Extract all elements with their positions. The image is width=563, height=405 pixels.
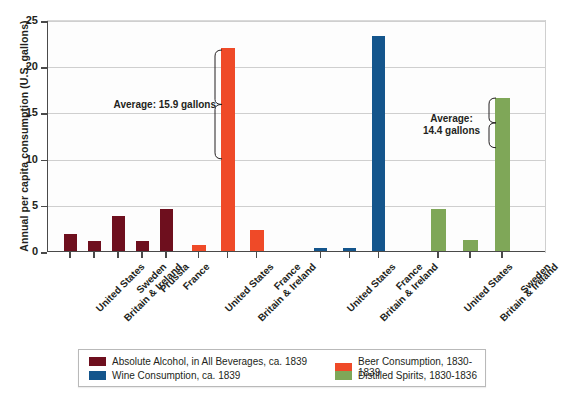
bar [136, 241, 149, 251]
legend-item-3[interactable]: Distilled Spirits, 1830-1836 [335, 370, 477, 381]
x-tick-mark [165, 252, 167, 258]
bar [192, 245, 206, 251]
x-tick-mark [93, 252, 95, 258]
legend-label-wine: Wine Consumption, ca. 1839 [112, 370, 240, 381]
gridline-5 [48, 206, 545, 207]
bar [88, 241, 101, 251]
bar [250, 230, 264, 251]
x-tick-mark [469, 252, 471, 258]
x-tick-mark [256, 252, 258, 258]
x-tick-mark [198, 252, 200, 258]
y-tick-label-10: 10 [5, 153, 38, 165]
y-tick-label-5: 5 [5, 199, 38, 211]
bar [160, 209, 173, 251]
bar [343, 248, 356, 251]
gridline-25 [48, 21, 545, 22]
x-tick-mark [378, 252, 380, 258]
y-tick-mark-0 [41, 252, 47, 254]
plot-right-border [545, 20, 546, 253]
legend-label-spirits: Distilled Spirits, 1830-1836 [358, 370, 477, 381]
gridline-20 [48, 67, 545, 68]
x-tick-mark [437, 252, 439, 258]
annotation-beer-average: Average: 15.9 gallons [96, 99, 216, 111]
bar [112, 216, 125, 251]
gridline-10 [48, 160, 545, 161]
y-tick-label-15: 15 [5, 106, 38, 118]
x-tick-mark [227, 252, 229, 258]
brace-icon [487, 97, 498, 149]
x-tick-mark [320, 252, 322, 258]
legend-swatch-wine [89, 371, 106, 380]
bar [314, 248, 327, 251]
legend-item-1[interactable]: Wine Consumption, ca. 1839 [89, 370, 240, 381]
y-tick-label-25: 25 [5, 14, 38, 26]
bar [431, 209, 446, 252]
legend-swatch-absolute-alcohol [89, 357, 106, 366]
x-tick-mark [501, 252, 503, 258]
annotation-spirits-average: Average: 14.4 gallons [415, 113, 488, 137]
bar [64, 234, 77, 251]
legend: Absolute Alcohol, in All Beverages, ca. … [78, 349, 486, 387]
legend-item-0[interactable]: Absolute Alcohol, in All Beverages, ca. … [89, 356, 307, 367]
bar [372, 36, 385, 251]
x-tick-mark [69, 252, 71, 258]
chart-figure: Annual per capita consumption (U.S. gall… [0, 0, 563, 405]
x-tick-mark [349, 252, 351, 258]
legend-label-absolute-alcohol: Absolute Alcohol, in All Beverages, ca. … [112, 356, 307, 367]
bar [463, 240, 478, 251]
y-axis-title: Annual per capita consumption (U.S. gall… [18, 16, 30, 256]
y-tick-label-20: 20 [5, 60, 38, 72]
x-tick-mark [117, 252, 119, 258]
x-tick-mark [141, 252, 143, 258]
y-tick-label-0: 0 [5, 245, 38, 257]
legend-swatch-spirits [335, 371, 352, 380]
